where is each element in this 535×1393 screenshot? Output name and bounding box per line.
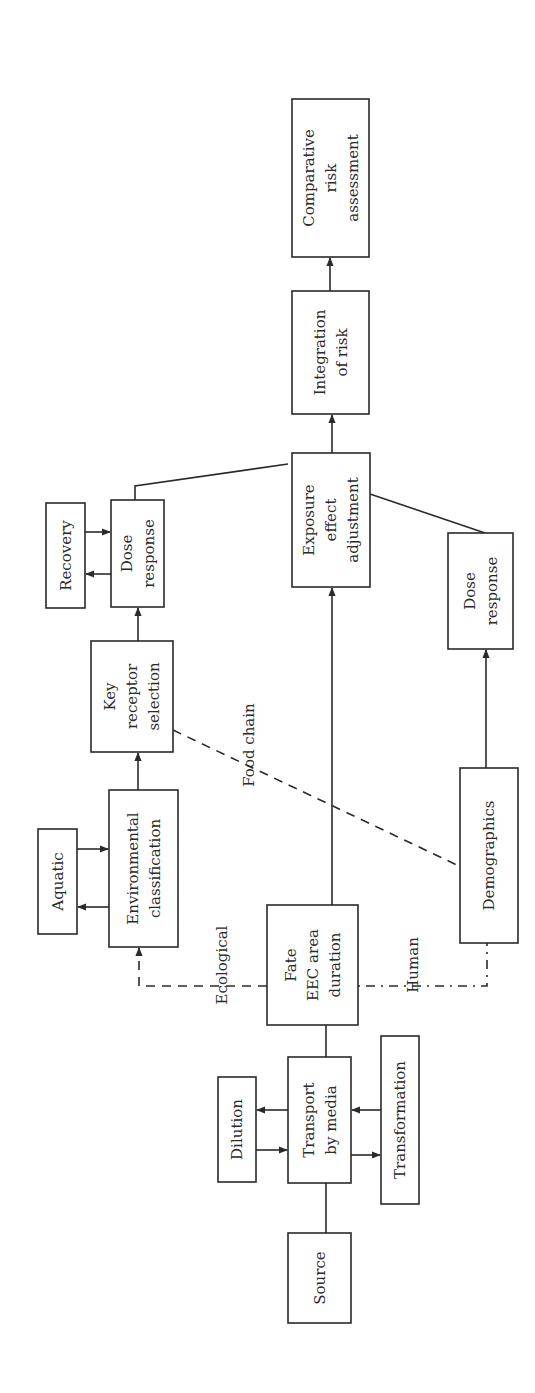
node-label: Comparative — [300, 129, 318, 227]
node-label: EEC area — [304, 929, 322, 1001]
node-label: response — [140, 519, 158, 588]
node-label: Environmental — [124, 812, 142, 924]
node-label: response — [483, 557, 501, 626]
node-label: of risk — [333, 328, 351, 377]
node-aquatic: Aquatic — [38, 829, 77, 934]
node-label: classification — [146, 819, 164, 919]
node-label: by media — [322, 1085, 340, 1154]
node-label: Transport — [300, 1082, 318, 1157]
node-label: assessment — [344, 134, 362, 221]
node-dose-response-human: Doseresponse — [448, 533, 513, 649]
edge-food-chain — [173, 730, 459, 866]
node-key-receptor: Keyreceptorselection — [91, 641, 173, 752]
node-box — [448, 533, 513, 649]
node-transformation: Transformation — [381, 1036, 419, 1204]
node-label: Fate — [282, 948, 300, 981]
edge-dose-eco-exposure — [135, 464, 288, 500]
node-label: Integration — [311, 309, 329, 395]
node-recovery: Recovery — [46, 503, 85, 608]
node-label: risk — [322, 163, 340, 193]
node-label: receptor — [123, 663, 141, 729]
node-transport: Transportby media — [288, 1057, 351, 1183]
node-box — [109, 790, 178, 947]
node-label: effect — [322, 499, 340, 542]
node-label: Dilution — [228, 1099, 246, 1160]
node-env-class: Environmentalclassification — [109, 790, 178, 947]
node-source: Source — [288, 1233, 351, 1323]
node-dose-response-eco: Doseresponse — [111, 500, 164, 607]
node-label: Key — [101, 682, 119, 711]
node-label: selection — [145, 662, 163, 731]
node-label: Transformation — [391, 1061, 409, 1179]
edge-human — [358, 943, 487, 986]
edge-ecological — [139, 948, 267, 986]
node-dilution: Dilution — [218, 1077, 256, 1182]
edge-label-food-chain: Food chain — [240, 703, 258, 787]
node-label: duration — [326, 932, 344, 997]
node-label: Source — [311, 1251, 329, 1305]
node-label: Aquatic — [49, 852, 67, 911]
node-box — [292, 291, 369, 414]
node-fate: FateEEC areaduration — [267, 905, 358, 1025]
node-demographics: Demographics — [460, 768, 518, 943]
node-label: adjustment — [344, 477, 362, 562]
edge-label-human: Human — [404, 937, 422, 993]
edge-dose-human-exposure — [370, 494, 488, 534]
node-label: Exposure — [300, 484, 318, 556]
node-integration: Integrationof risk — [292, 291, 369, 414]
nodes: SourceTransportby mediaDilutionTransform… — [38, 99, 518, 1323]
node-box — [288, 1057, 351, 1183]
node-exposure-effect: Exposureeffectadjustment — [292, 453, 370, 587]
node-label: Dose — [461, 572, 479, 610]
risk-assessment-flow-diagram: SourceTransportby mediaDilutionTransform… — [0, 0, 535, 1393]
node-label: Dose — [118, 535, 136, 573]
node-comparative: Comparativeriskassessment — [292, 99, 369, 257]
node-label: Demographics — [480, 800, 498, 910]
edge-label-ecological: Ecological — [213, 925, 231, 1004]
node-label: Recovery — [57, 520, 75, 591]
